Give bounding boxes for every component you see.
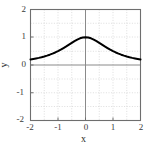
x-tick-label-neg2: -2 — [21, 123, 39, 132]
y-tick-label-1: 1 — [12, 32, 26, 41]
y-tick-label-2: 2 — [12, 5, 26, 14]
y-tick-label-0: 0 — [12, 60, 26, 69]
y-axis-title: y — [0, 63, 9, 68]
x-tick-label-neg1: -1 — [49, 123, 67, 132]
x-tick-label-1: 1 — [104, 123, 122, 132]
x-tick-label-0: 0 — [77, 123, 95, 132]
x-tick-label-2: 2 — [132, 123, 150, 132]
chart-figure: 2 1 0 -1 -2 -2 -1 0 1 2 x y — [0, 0, 151, 146]
x-axis-title: x — [81, 134, 86, 144]
y-tick-label-neg1: -1 — [10, 88, 24, 97]
